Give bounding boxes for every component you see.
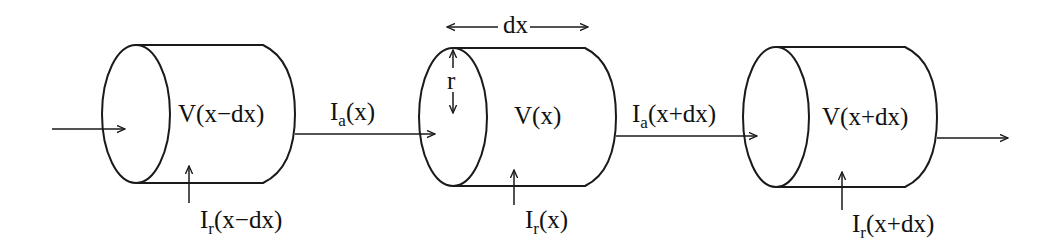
cylinder-end-face xyxy=(102,45,170,183)
voltage-label: V(x−dx) xyxy=(178,100,264,128)
axial-current-label-1: Ia(x) xyxy=(330,98,375,130)
radius-dimension: r xyxy=(447,50,456,113)
compartment-curr: V(x) Ir(x) dx r xyxy=(419,11,616,238)
radius-label: r xyxy=(447,67,456,94)
cable-compartment-diagram: V(x−dx) Ir(x−dx) Ia(x) V(x) Ir(x) dx r xyxy=(0,0,1059,250)
compartment-prev: V(x−dx) Ir(x−dx) xyxy=(102,45,295,238)
length-label: dx xyxy=(503,11,529,38)
axial-current-label-2: Ia(x+dx) xyxy=(632,100,716,132)
radial-current-label: Ir(x−dx) xyxy=(200,206,282,238)
radial-current-label: Ir(x) xyxy=(525,206,568,238)
compartment-next: V(x+dx) Ir(x+dx) xyxy=(743,47,937,242)
length-dimension: dx xyxy=(447,11,588,38)
cylinder-end-face xyxy=(743,47,809,187)
voltage-label: V(x+dx) xyxy=(822,103,908,131)
voltage-label: V(x) xyxy=(514,102,561,130)
radial-current-label: Ir(x+dx) xyxy=(852,210,934,242)
